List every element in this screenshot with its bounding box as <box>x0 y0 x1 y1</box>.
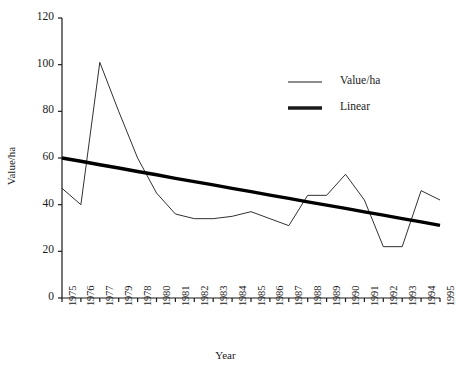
legend-line-samples <box>288 82 322 108</box>
x-axis-tick-label: 1983 <box>218 286 229 306</box>
x-axis-tick-label: 1986 <box>274 286 285 306</box>
x-axis-tick-label: 1991 <box>369 286 380 306</box>
x-axis-tick-label: 1984 <box>237 286 248 306</box>
x-axis-tick-label: 1979 <box>123 286 134 306</box>
y-axis-tick-label: 60 <box>20 150 54 162</box>
x-axis-title: Year <box>0 349 451 361</box>
series-line-linear <box>62 158 440 225</box>
series-line-value-ha <box>62 62 440 246</box>
x-axis-tick-label: 1975 <box>67 286 78 306</box>
y-axis-title: Value/ha <box>5 136 17 196</box>
y-axis-tick-label: 100 <box>20 57 54 69</box>
axes <box>58 18 440 302</box>
x-axis-tick-label: 1976 <box>85 286 96 306</box>
x-axis-tick-label: 1980 <box>161 286 172 306</box>
x-axis-tick-label: 1995 <box>445 286 456 306</box>
y-axis-tick-label: 120 <box>20 10 54 22</box>
x-axis-tick-label: 1985 <box>256 286 267 306</box>
legend-label-value-ha: Value/ha <box>340 74 380 86</box>
x-axis-tick-label: 1994 <box>426 286 437 306</box>
x-axis-tick-label: 1992 <box>388 286 399 306</box>
x-axis-tick-label: 1982 <box>199 286 210 306</box>
x-axis-tick-label: 1993 <box>407 286 418 306</box>
y-axis-tick-label: 80 <box>20 103 54 115</box>
x-axis-tick-label: 1988 <box>312 286 323 306</box>
x-axis-tick-label: 1990 <box>350 286 361 306</box>
y-axis-tick-label: 40 <box>20 197 54 209</box>
y-axis-tick-label: 0 <box>20 290 54 302</box>
legend-label-linear: Linear <box>340 100 370 112</box>
y-axis-tick-label: 20 <box>20 243 54 255</box>
x-axis-tick-label: 1987 <box>293 286 304 306</box>
x-axis-tick-label: 1981 <box>180 286 191 306</box>
x-axis-tick-label: 1977 <box>104 286 115 306</box>
data-series-group <box>62 62 440 246</box>
x-axis-tick-label: 1989 <box>331 286 342 306</box>
x-axis-ticks <box>62 298 440 302</box>
x-axis-tick-label: 1978 <box>142 286 153 306</box>
